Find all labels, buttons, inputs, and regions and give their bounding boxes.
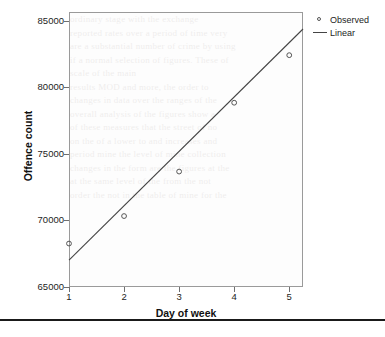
chart-legend: Observed Linear (313, 13, 381, 39)
observed-data-markers (67, 53, 292, 246)
legend-label: Linear (329, 28, 355, 38)
x-tick-label: 2 (112, 291, 136, 302)
legend-label: Observed (329, 15, 369, 25)
x-tick-label: 4 (222, 291, 246, 302)
y-tick-label: 65000 (22, 281, 64, 292)
x-axis-tick-labels: 12345 (0, 291, 385, 305)
legend-item-observed: Observed (313, 13, 381, 26)
chart-figure: ordinary stage with the exchange reporte… (0, 0, 385, 337)
x-tick-label: 3 (167, 291, 191, 302)
line-segment-icon (313, 26, 329, 39)
data-point-marker (287, 53, 292, 58)
x-tick-label: 1 (57, 291, 81, 302)
data-point-marker (177, 169, 182, 174)
y-tick-label: 85000 (22, 15, 64, 26)
data-point-marker (232, 100, 237, 105)
x-axis-title: Day of week (69, 307, 303, 319)
y-axis-title: Offence count (22, 66, 34, 226)
open-circle-marker-icon (313, 13, 329, 26)
legend-item-linear: Linear (313, 26, 381, 39)
x-tick-label: 5 (277, 291, 301, 302)
data-point-marker (122, 214, 127, 219)
page-bottom-rule (0, 319, 385, 321)
data-point-marker (67, 241, 72, 246)
y-axis-ticks (64, 21, 69, 287)
linear-fit-line (69, 29, 303, 260)
